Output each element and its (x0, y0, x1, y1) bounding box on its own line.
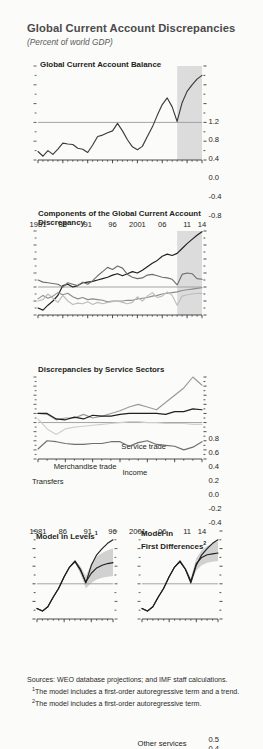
panel4b-svg (139, 521, 221, 633)
panel1-y-tick: 1.2 (209, 117, 220, 126)
panel-components-of-discrepancy: Components of the Global Current Account… (0, 207, 263, 347)
figure-title: Global Current Account Discrepancies (27, 22, 235, 34)
panel1-y-tick: 0.8 (209, 135, 220, 144)
panel1-svg (34, 58, 206, 174)
footnote-2-text: The model includes a first-order autoreg… (35, 701, 201, 709)
panel-model-in-levels: Model in Levels1 Current account discrep… (0, 517, 132, 657)
panel2-plot (34, 209, 206, 329)
panel3-y-tick: 0.4 (209, 744, 220, 749)
panel-discrepancies-by-service-sectors: Discrepancies by Service Sectors Other s… (0, 362, 263, 492)
panel1-plot (34, 58, 206, 174)
panel4a-svg (34, 521, 116, 633)
panel4a-plot (34, 521, 116, 633)
notes-footnote-1: 1The model includes a first-order autore… (27, 685, 249, 697)
figure-notes: Sources: WEO database projections; and I… (27, 676, 249, 709)
panel1-y-tick: -0.4 (209, 192, 222, 201)
panel2-y-tick: -0.2 (209, 504, 222, 513)
panel3-svg (34, 365, 206, 475)
panel-model-in-first-differences: Model in First Differences2 Dynamic fore… (131, 517, 263, 657)
footnote-1-text: The model includes a first-order autoreg… (35, 688, 239, 696)
panel1-y-tick: 0.4 (209, 154, 220, 163)
panel3-plot (34, 365, 206, 475)
panel3-y-tick: 0.5 (209, 735, 220, 744)
panel1-y-tick: 0.0 (209, 173, 220, 182)
panel4b-plot (139, 521, 221, 633)
notes-sources: Sources: WEO database projections; and I… (27, 676, 249, 685)
figure-container: Global Current Account Discrepancies (Pe… (0, 0, 263, 749)
panel3-annotation: Other services (138, 740, 187, 749)
panel2-svg (34, 209, 206, 329)
panel-global-current-account-balance: Global Current Account Balance -0.8-0.40… (0, 55, 263, 190)
notes-footnote-2: 2The model includes a first-order autore… (27, 697, 249, 709)
figure-subtitle: (Percent of world GDP) (27, 37, 113, 47)
